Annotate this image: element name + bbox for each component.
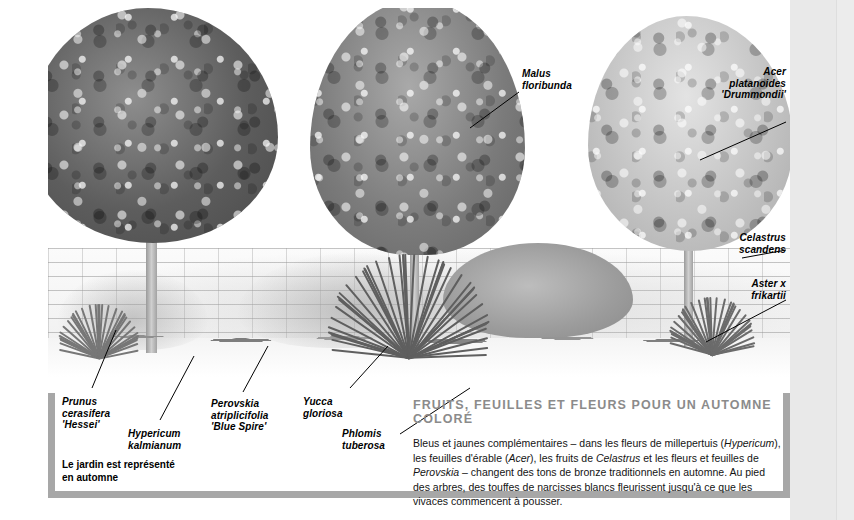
tree-canopy <box>48 8 278 243</box>
aster-clump <box>668 293 754 355</box>
label-acer: Acer platanoides 'Drummondii' <box>706 66 786 101</box>
page-edge-seam <box>836 0 854 520</box>
tree-canopy <box>588 16 790 251</box>
grass-clump-left <box>58 300 138 358</box>
label-malus: Malus floribunda <box>522 68 572 91</box>
caption-text-3: les feuilles d'érable ( <box>413 452 508 464</box>
caption-em-celastrus: Celastrus <box>596 452 640 464</box>
caption-em-hypericum: Hypericum <box>724 437 774 449</box>
caption-em-perovskia: Perovskia <box>413 466 459 478</box>
label-celastrus: Celastrus scandens <box>700 232 786 255</box>
label-prunus: Prunus cerasifera 'Hessei' <box>62 396 110 431</box>
label-perovskia: Perovskia atriplicifolia 'Blue Spire' <box>211 398 269 433</box>
caption-body: Bleus et jaunes complémentaires – dans l… <box>413 436 783 509</box>
caption-text-6: – <box>459 466 468 478</box>
label-yucca: Yucca gloriosa <box>303 396 343 419</box>
tree-canopy <box>310 8 525 255</box>
caption-em-acer: Acer <box>508 452 530 464</box>
label-phlomis: Phlomis tuberosa <box>342 428 385 451</box>
caption-text-2: ), <box>774 437 780 449</box>
yucca-clump <box>348 248 468 358</box>
footnote-line-2: en automne <box>62 471 282 484</box>
caption-text-5: et les fleurs et feuilles de <box>640 452 758 464</box>
garden-scene <box>48 8 790 393</box>
caption-text-4: ), les fruits de <box>530 452 596 464</box>
footnote-line-1: Le jardin est représenté <box>62 458 282 471</box>
caption-title: FRUITS, FEUILLES ET FLEURS POUR UN AUTOM… <box>413 398 783 426</box>
caption-block: FRUITS, FEUILLES ET FLEURS POUR UN AUTOM… <box>413 398 783 509</box>
label-aster: Aster x frikartii <box>700 278 786 301</box>
caption-text-1: Bleus et jaunes complémentaires – dans l… <box>413 437 724 449</box>
footnote-season: Le jardin est représenté en automne <box>62 458 282 484</box>
label-hypericum: Hypericum kalmianum <box>128 428 181 451</box>
